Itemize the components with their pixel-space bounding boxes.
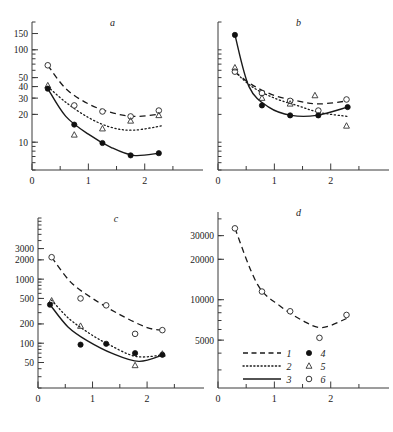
marker-open-circle [103,303,109,309]
curve-series-1 [52,257,164,330]
marker-filled-circle [259,103,264,108]
legend-marker-open-circle [306,376,312,382]
panel-c: 30002000100050020010050012c [15,213,204,404]
marker-open-triangle [78,323,84,328]
y-tick-label: 100 [20,339,35,349]
y-tick-label: 20000 [190,255,214,265]
legend-marker-filled-circle [306,350,311,355]
figure-canvas: 1501005040302010012a012b3000200010005002… [0,0,393,432]
marker-filled-circle [100,140,105,145]
curve-series-2 [52,300,164,357]
legend: 123456 [243,348,326,385]
x-tick-label: 1 [86,175,91,186]
legend-label-1: 1 [287,348,292,359]
curve-series-3 [50,305,164,362]
y-tick-label: 100 [14,45,29,55]
marker-filled-circle [156,151,161,156]
marker-filled-circle [47,302,52,307]
marker-filled-circle [72,122,77,127]
marker-open-triangle [132,362,138,367]
panel-title-a: a [110,17,115,28]
panel-title-b: b [296,17,301,28]
marker-filled-circle [232,32,237,37]
marker-open-circle [100,109,106,115]
panel-a: 1501005040302010012a [14,17,203,186]
marker-open-circle [287,308,293,314]
marker-open-triangle [100,125,106,130]
marker-open-triangle [71,132,77,137]
x-tick-label: 2 [142,175,147,186]
marker-open-circle [132,331,138,337]
y-tick-label: 50 [25,358,35,368]
marker-filled-circle [288,113,293,118]
marker-open-circle [71,103,77,109]
panel-title-d: d [296,207,302,218]
x-tick-label: 2 [328,393,333,404]
marker-open-circle [259,289,265,295]
y-tick-label: 200 [20,319,35,329]
legend-label-3: 3 [286,374,292,385]
marker-filled-circle [45,86,50,91]
panel-b: 012b [216,17,390,186]
y-tick-label: 5000 [195,336,214,346]
x-tick-label: 0 [30,175,35,186]
marker-filled-circle [132,351,137,356]
legend-label-6: 6 [321,374,326,385]
figure-multi-panel: 1501005040302010012a012b3000200010005002… [0,0,393,432]
marker-filled-circle [345,104,350,109]
marker-open-triangle [344,123,350,128]
x-tick-label: 1 [272,175,277,186]
y-tick-label: 150 [14,29,29,39]
x-tick-label: 0 [216,175,221,186]
legend-label-4: 4 [321,348,326,359]
x-tick-label: 0 [216,393,221,404]
y-tick-label: 2000 [15,255,34,265]
x-tick-label: 2 [328,175,333,186]
y-tick-label: 500 [20,294,35,304]
marker-filled-circle [104,341,109,346]
marker-open-circle [78,296,84,302]
marker-filled-circle [128,153,133,158]
y-tick-label: 40 [19,82,29,92]
x-tick-label: 1 [90,393,95,404]
marker-open-circle [344,97,350,103]
x-tick-label: 0 [36,393,41,404]
legend-marker-open-triangle [306,363,312,368]
marker-open-circle [317,335,323,341]
y-tick-label: 1000 [15,275,34,285]
marker-open-circle [344,312,350,318]
y-tick-label: 30 [19,94,29,104]
marker-open-circle [49,254,55,260]
x-tick-label: 2 [145,393,150,404]
marker-filled-circle [160,352,165,357]
marker-open-triangle [312,92,318,97]
legend-label-2: 2 [287,361,292,372]
y-tick-label: 20 [19,110,29,120]
curve-series-2 [235,72,348,117]
y-tick-label: 3000 [15,244,34,254]
marker-open-circle [45,62,51,68]
marker-filled-circle [78,342,83,347]
marker-open-triangle [259,95,265,100]
y-tick-label: 10 [19,138,29,148]
panel-title-c: c [114,213,119,224]
marker-filled-circle [316,113,321,118]
y-tick-label: 10000 [190,295,214,305]
y-tick-label: 30000 [190,231,214,241]
marker-open-circle [160,327,166,333]
curve-series-2 [48,87,162,131]
x-tick-label: 1 [272,393,277,404]
marker-open-circle [232,226,238,232]
legend-label-5: 5 [321,361,326,372]
